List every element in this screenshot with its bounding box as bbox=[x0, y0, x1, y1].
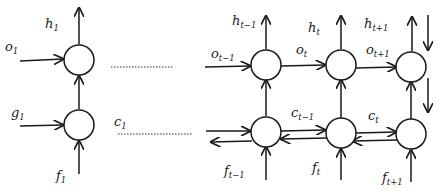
cell-node-t bbox=[326, 118, 356, 148]
cell-node-tplus1 bbox=[396, 119, 426, 149]
label-h-tminus1: ht−1 bbox=[232, 13, 256, 30]
label-f-t: ft bbox=[311, 160, 321, 177]
g1-input-arrow bbox=[20, 125, 63, 126]
label-o-tplus1: ot+1 bbox=[366, 42, 390, 59]
label-h-t: ht bbox=[308, 20, 320, 37]
label-f-tminus1: ft−1 bbox=[223, 163, 245, 180]
c-tminus1-forward-arrow bbox=[281, 130, 325, 131]
ellipsis-connectors: c1 bbox=[111, 67, 193, 134]
label-o1: o1 bbox=[5, 39, 18, 56]
label-c1: c1 bbox=[114, 114, 127, 131]
o-tplus1-arrow bbox=[356, 67, 396, 68]
o-tminus1-input-arrow bbox=[205, 66, 250, 67]
hidden-node-1 bbox=[64, 45, 94, 75]
c-tminus1-backward-arrow bbox=[281, 138, 327, 139]
hidden-node-tminus1 bbox=[251, 50, 281, 80]
label-o-t: ot bbox=[296, 42, 308, 59]
label-c-tminus1: ct−1 bbox=[291, 105, 314, 122]
cell-node-tminus1 bbox=[251, 117, 281, 147]
left-unit: h1 o1 g1 f1 bbox=[5, 8, 94, 185]
label-f1: f1 bbox=[55, 168, 66, 185]
c-backward-arrow-out bbox=[211, 141, 252, 142]
label-c-t: ct bbox=[368, 108, 379, 125]
hidden-node-t bbox=[326, 50, 356, 80]
label-h1: h1 bbox=[45, 16, 59, 33]
label-h-tplus1: ht+1 bbox=[364, 16, 388, 33]
lstm-diagram: h1 o1 g1 f1 c1 bbox=[0, 0, 439, 191]
o1-input-arrow bbox=[20, 59, 63, 61]
o-t-arrow bbox=[281, 65, 325, 66]
c-t-forward-arrow bbox=[356, 132, 396, 133]
label-g1: g1 bbox=[11, 105, 25, 122]
right-chain: ht−1 ht ht+1 ot−1 ot ot+1 ct−1 ct ft−1 f… bbox=[205, 13, 428, 187]
label-o-tminus1: ot−1 bbox=[211, 46, 235, 63]
label-f-tplus1: ft+1 bbox=[381, 170, 403, 187]
c-t-backward-arrow bbox=[353, 140, 397, 141]
cell-node-1 bbox=[64, 110, 94, 140]
hidden-node-tplus1 bbox=[396, 52, 426, 82]
